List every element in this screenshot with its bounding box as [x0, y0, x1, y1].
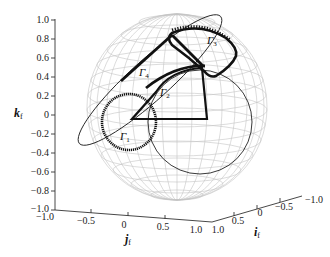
svg-text:1.0: 1.0	[37, 14, 50, 25]
svg-text:0.5: 0.5	[232, 215, 245, 226]
svg-text:0.2: 0.2	[37, 90, 50, 101]
svg-text:−1.0: −1.0	[36, 211, 54, 222]
k-axis	[51, 19, 55, 210]
svg-text:−0.4: −0.4	[31, 147, 49, 158]
svg-text:−0.5: −0.5	[77, 215, 95, 226]
label-gamma1: Γ1	[119, 130, 130, 144]
svg-text:−0.5: −0.5	[275, 201, 293, 212]
svg-text:0.6: 0.6	[37, 52, 50, 63]
sphere-figure: Γ1 Γ2 Γ3 Γ4 1.0 0.8 0.6 0.4 0.2 0 −0.2 −…	[0, 0, 330, 257]
svg-text:−0.8: −0.8	[31, 185, 49, 196]
svg-text:1.0: 1.0	[190, 224, 203, 235]
svg-text:0: 0	[258, 207, 263, 218]
i-axis-ticks: 1.0 0.5 0 −0.5 −1.0	[212, 194, 323, 235]
label-gamma2: Γ2	[159, 86, 170, 100]
k-axis-ticks: 1.0 0.8 0.6 0.4 0.2 0 −0.2 −0.4 −0.6 −0.…	[31, 14, 49, 214]
label-gamma4: Γ4	[138, 66, 149, 80]
k-axis-label: kf	[14, 106, 23, 121]
i-axis-label: if	[254, 225, 260, 240]
svg-text:0.4: 0.4	[37, 71, 50, 82]
svg-text:0.5: 0.5	[157, 221, 170, 232]
svg-text:0: 0	[44, 109, 49, 120]
j-axis-label: jf	[123, 232, 131, 247]
svg-text:−1.0: −1.0	[305, 194, 323, 205]
svg-text:0.8: 0.8	[37, 33, 50, 44]
svg-text:−0.2: −0.2	[31, 128, 49, 139]
svg-text:1.0: 1.0	[212, 224, 225, 235]
svg-text:−0.6: −0.6	[31, 166, 49, 177]
svg-text:0: 0	[122, 219, 127, 230]
